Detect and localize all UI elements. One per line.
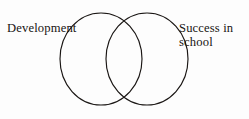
venn-label-right: Success in school (179, 21, 233, 50)
venn-label-left: Development (7, 21, 77, 35)
venn-diagram-canvas (0, 0, 249, 119)
venn-circle-right (106, 13, 188, 105)
venn-diagram-figure: Development Success in school (0, 0, 249, 119)
